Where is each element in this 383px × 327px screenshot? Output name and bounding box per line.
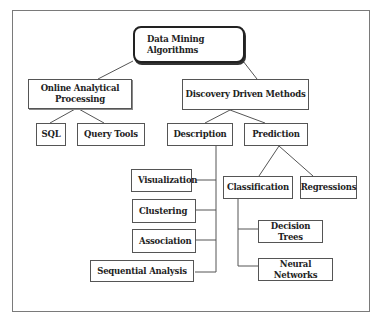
node-sql: SQL xyxy=(36,123,66,146)
node-query-tools: Query Tools xyxy=(77,123,145,146)
node-label: Neural Networks xyxy=(259,259,332,280)
node-sequential-analysis: Sequential Analysis xyxy=(90,260,194,282)
node-data-mining-algorithms: Data Mining Algorithms xyxy=(133,26,245,63)
node-clustering: Clustering xyxy=(132,199,196,223)
node-classification: Classification xyxy=(223,176,293,199)
node-label: Online Analytical Processing xyxy=(29,83,131,104)
node-label: Classification xyxy=(227,182,289,193)
node-label: Description xyxy=(173,129,226,140)
node-visualization: Visualization xyxy=(131,169,192,192)
node-label: Regressions xyxy=(301,182,357,193)
node-prediction: Prediction xyxy=(244,123,308,146)
node-label: Decision Trees xyxy=(259,221,322,242)
node-online-analytical-processing: Online Analytical Processing xyxy=(28,79,132,109)
node-label: Discovery Driven Methods xyxy=(185,89,305,100)
node-association: Association xyxy=(132,229,196,253)
node-label: SQL xyxy=(42,129,61,140)
node-label: Clustering xyxy=(139,206,187,217)
node-neural-networks: Neural Networks xyxy=(258,258,333,281)
node-label: Sequential Analysis xyxy=(97,266,187,277)
node-regressions: Regressions xyxy=(300,176,357,199)
node-description: Description xyxy=(167,123,233,146)
node-decision-trees: Decision Trees xyxy=(258,220,323,243)
node-label: Data Mining Algorithms xyxy=(147,34,243,55)
node-label: Visualization xyxy=(138,175,197,186)
node-label: Association xyxy=(139,236,192,247)
node-discovery-driven-methods: Discovery Driven Methods xyxy=(182,79,309,110)
node-label: Query Tools xyxy=(84,129,138,140)
node-label: Prediction xyxy=(252,129,300,140)
